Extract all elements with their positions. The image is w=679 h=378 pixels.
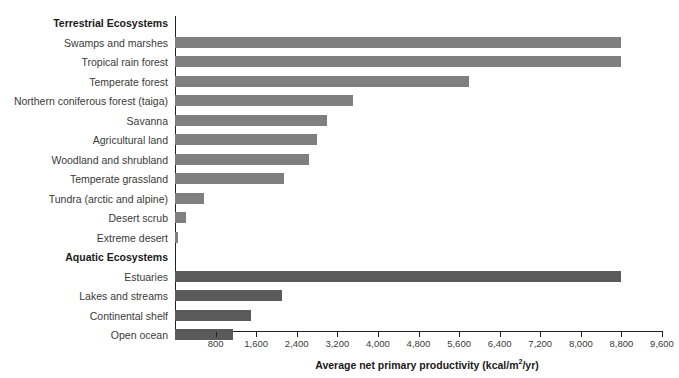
bar bbox=[175, 173, 284, 184]
category-label: Agricultural land bbox=[93, 134, 168, 146]
x-axis-tick-label: 4,000 bbox=[366, 338, 390, 349]
x-axis-tick bbox=[500, 332, 501, 337]
x-axis-tick-label: 8,800 bbox=[610, 338, 634, 349]
x-axis-tick-label: 800 bbox=[208, 338, 224, 349]
x-axis-title: Average net primary productivity (kcal/m… bbox=[175, 358, 679, 371]
category-label-column: Terrestrial EcosystemsSwamps and marshes… bbox=[0, 0, 175, 378]
bar bbox=[175, 37, 621, 48]
category-label: Temperate forest bbox=[89, 76, 168, 88]
category-label: Swamps and marshes bbox=[64, 37, 168, 49]
group-header-label: Terrestrial Ecosystems bbox=[53, 17, 168, 29]
bar bbox=[175, 232, 178, 243]
x-axis-tick-label: 9,600 bbox=[650, 338, 674, 349]
x-axis-tick bbox=[378, 332, 379, 337]
bar bbox=[175, 56, 621, 67]
x-axis-title-after: /yr) bbox=[522, 359, 538, 371]
category-label: Savanna bbox=[127, 115, 168, 127]
bar bbox=[175, 329, 233, 340]
x-axis-tick bbox=[297, 332, 298, 337]
x-axis-tick-label: 7,200 bbox=[528, 338, 552, 349]
x-axis-tick-label: 4,800 bbox=[407, 338, 431, 349]
category-label: Tundra (arctic and alpine) bbox=[49, 193, 168, 205]
bar bbox=[175, 193, 204, 204]
bar bbox=[175, 134, 317, 145]
x-axis-tick bbox=[216, 332, 217, 337]
x-axis-tick bbox=[662, 332, 663, 337]
bar bbox=[175, 212, 186, 223]
x-axis-tick-label: 6,400 bbox=[488, 338, 512, 349]
x-axis-tick-label: 5,600 bbox=[447, 338, 471, 349]
x-axis-tick bbox=[337, 332, 338, 337]
group-header-label: Aquatic Ecosystems bbox=[65, 251, 168, 263]
bar bbox=[175, 115, 327, 126]
category-label: Lakes and streams bbox=[79, 290, 168, 302]
x-axis-tick bbox=[621, 332, 622, 337]
x-axis-tick bbox=[459, 332, 460, 337]
bar bbox=[175, 95, 353, 106]
x-axis-tick bbox=[540, 332, 541, 337]
x-axis-tick bbox=[256, 332, 257, 337]
bar bbox=[175, 154, 309, 165]
category-label: Tropical rain forest bbox=[81, 56, 168, 68]
category-label: Desert scrub bbox=[108, 212, 168, 224]
plot-area: Average net primary productivity (kcal/m… bbox=[175, 0, 679, 378]
x-axis-tick bbox=[419, 332, 420, 337]
bar bbox=[175, 271, 621, 282]
category-label: Continental shelf bbox=[90, 310, 168, 322]
x-axis-title-before: Average net primary productivity (kcal/m bbox=[315, 359, 518, 371]
x-axis-tick bbox=[581, 332, 582, 337]
npp-bar-chart: Terrestrial EcosystemsSwamps and marshes… bbox=[0, 0, 679, 378]
category-label: Northern coniferous forest (taiga) bbox=[14, 95, 168, 107]
category-label: Woodland and shrubland bbox=[51, 154, 168, 166]
bar bbox=[175, 310, 251, 321]
x-axis-tick-label: 2,400 bbox=[285, 338, 309, 349]
x-axis-tick-label: 3,200 bbox=[325, 338, 349, 349]
bar bbox=[175, 76, 469, 87]
category-label: Open ocean bbox=[111, 329, 168, 341]
category-label: Estuaries bbox=[124, 271, 168, 283]
bar bbox=[175, 290, 282, 301]
x-axis-tick-label: 1,600 bbox=[244, 338, 268, 349]
x-axis-tick-label: 8,000 bbox=[569, 338, 593, 349]
category-label: Extreme desert bbox=[97, 232, 168, 244]
category-label: Temperate grassland bbox=[70, 173, 168, 185]
